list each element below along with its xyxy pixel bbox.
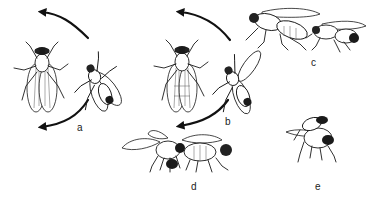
panel-label-b: b	[225, 117, 231, 127]
female-fly-a	[14, 42, 68, 112]
panel-label-a: a	[77, 123, 83, 133]
male-fly-d	[182, 135, 232, 172]
male-fly-a	[65, 48, 130, 120]
figure-canvas: a b c d e	[0, 0, 371, 199]
illustration	[0, 0, 371, 199]
female-fly-d	[122, 131, 185, 172]
male-fly-c	[306, 21, 366, 52]
flies-e	[286, 115, 336, 162]
male-fly-b	[203, 45, 282, 123]
flies-c	[246, 8, 366, 52]
female-fly-c	[246, 8, 320, 50]
panel-label-c: c	[311, 58, 316, 68]
flies-d	[122, 131, 232, 172]
panel-label-d: d	[191, 182, 197, 192]
panel-label-e: e	[315, 182, 321, 192]
female-fly-b	[154, 40, 208, 112]
